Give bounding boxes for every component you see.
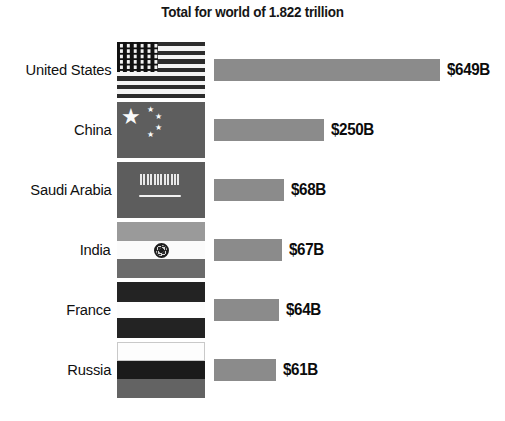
flag-band-bottom (117, 379, 205, 398)
flag-chakra-hub (159, 248, 164, 253)
bar-value-label: $64B (286, 301, 321, 319)
bar-track: $61B (214, 359, 494, 381)
chart-row: India$67B (0, 220, 505, 280)
flag-star-small-2: ★ (155, 113, 162, 121)
bar-track: $250B (214, 119, 494, 141)
bar-track: $649B (214, 59, 494, 81)
flag-band-top (117, 222, 205, 241)
flag-band-bottom (117, 259, 205, 278)
value-bar (214, 59, 440, 81)
flag-star-small-4: ★ (147, 131, 154, 139)
value-bar (214, 299, 279, 321)
country-label: India (80, 241, 111, 259)
value-bar (214, 239, 282, 261)
flag-band-middle (117, 302, 205, 318)
flag-sword (139, 195, 181, 197)
bar-track: $64B (214, 299, 494, 321)
flag-star-small-1: ★ (147, 106, 154, 114)
bar-track: $67B (214, 239, 494, 261)
chart-row: France$64B (0, 280, 505, 340)
chart-title: Total for world of 1.822 trillion (18, 4, 488, 20)
chart-row: United States$649B (0, 40, 505, 100)
flag-band-top (117, 282, 205, 302)
bar-value-label: $649B (447, 61, 490, 79)
value-bar (214, 179, 284, 201)
flag-united-states-icon (117, 42, 205, 98)
bar-value-label: $68B (291, 181, 326, 199)
country-label: Russia (67, 361, 111, 379)
bar-track: $68B (214, 179, 494, 201)
flag-saudi-arabia-icon (117, 162, 205, 218)
value-bar (214, 359, 276, 381)
flag-band-bottom (117, 318, 205, 338)
flag-india-icon (117, 222, 205, 278)
value-bar (214, 119, 324, 141)
bar-value-label: $250B (331, 121, 374, 139)
bar-value-label: $61B (283, 361, 318, 379)
bar-value-label: $67B (289, 241, 324, 259)
flag-france-icon (117, 282, 205, 338)
flag-star-large: ★ (121, 106, 141, 128)
country-label: United States (25, 61, 111, 79)
flag-star-small-3: ★ (155, 124, 162, 132)
flag-china-icon: ★★★★★ (117, 102, 205, 158)
chart-row: Saudi Arabia$68B (0, 160, 505, 220)
chart-rows: United States$649BChina★★★★★$250BSaudi A… (0, 40, 505, 400)
chart-row: Russia$61B (0, 340, 505, 400)
chart-row: China★★★★★$250B (0, 100, 505, 160)
flag-shahada-script (140, 174, 180, 185)
country-label: France (66, 301, 111, 319)
country-label: China (73, 121, 111, 139)
bar-chart: Total for world of 1.822 trillion United… (0, 0, 505, 421)
country-label: Saudi Arabia (30, 181, 111, 199)
flag-band-top (117, 342, 205, 361)
flag-russia-icon (117, 342, 205, 398)
flag-band-middle (117, 361, 205, 380)
